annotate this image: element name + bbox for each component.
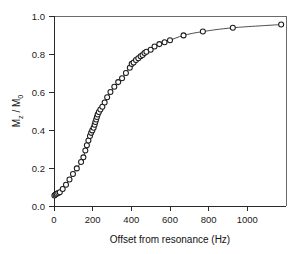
data-point xyxy=(200,29,205,34)
data-point xyxy=(123,71,128,76)
y-axis-tick-labels: 0.0 0.2 0.4 0.6 0.8 1.0 xyxy=(32,11,45,212)
y-tick-label-3: 0.6 xyxy=(32,87,45,98)
data-point xyxy=(279,22,284,27)
y-axis-title-m2: M xyxy=(11,99,22,107)
y-tick-label-0: 0.0 xyxy=(32,201,45,212)
data-point xyxy=(67,177,72,182)
y-axis-title-sub-0: 0 xyxy=(16,95,25,99)
x-axis-ticks xyxy=(54,206,247,211)
data-point xyxy=(102,100,107,105)
y-axis-ticks xyxy=(49,16,54,206)
data-point xyxy=(230,25,235,30)
data-point xyxy=(83,148,88,153)
data-point xyxy=(112,84,117,89)
x-axis-title: Offset from resonance (Hz) xyxy=(110,234,230,245)
data-point xyxy=(81,155,86,160)
fit-curve xyxy=(54,25,281,196)
data-point xyxy=(152,44,157,49)
data-point xyxy=(70,172,75,177)
x-tick-label-0: 0 xyxy=(51,214,56,225)
y-tick-label-1: 0.2 xyxy=(32,163,45,174)
data-point xyxy=(162,40,167,45)
scatter-plot: 0.0 0.2 0.4 0.6 0.8 1.0 0 200 400 600 80… xyxy=(0,0,302,254)
data-point xyxy=(74,166,79,171)
y-axis-title-slash: / xyxy=(11,107,22,115)
data-point xyxy=(181,33,186,38)
data-point xyxy=(168,38,173,43)
plot-frame xyxy=(54,16,286,206)
y-tick-label-5: 1.0 xyxy=(32,11,45,22)
data-point xyxy=(63,182,68,187)
x-tick-label-4: 800 xyxy=(201,214,217,225)
data-point xyxy=(105,95,110,100)
x-tick-label-1: 200 xyxy=(85,214,101,225)
y-axis-title: Mz / M0 xyxy=(11,95,25,128)
y-tick-label-4: 0.8 xyxy=(32,49,45,60)
y-tick-label-2: 0.4 xyxy=(32,125,45,136)
y-axis-title-m: M xyxy=(11,119,22,127)
data-point xyxy=(157,42,162,47)
data-point xyxy=(120,76,125,81)
x-tick-label-5: 1000 xyxy=(237,214,258,225)
data-point-markers xyxy=(52,22,284,198)
x-tick-label-2: 400 xyxy=(123,214,139,225)
svg-text:Mz / M0: Mz / M0 xyxy=(11,95,25,128)
figure-container: 0.0 0.2 0.4 0.6 0.8 1.0 0 200 400 600 80… xyxy=(0,0,302,254)
x-axis-tick-labels: 0 200 400 600 800 1000 xyxy=(51,214,258,225)
x-tick-label-3: 600 xyxy=(162,214,178,225)
data-point xyxy=(108,90,113,95)
